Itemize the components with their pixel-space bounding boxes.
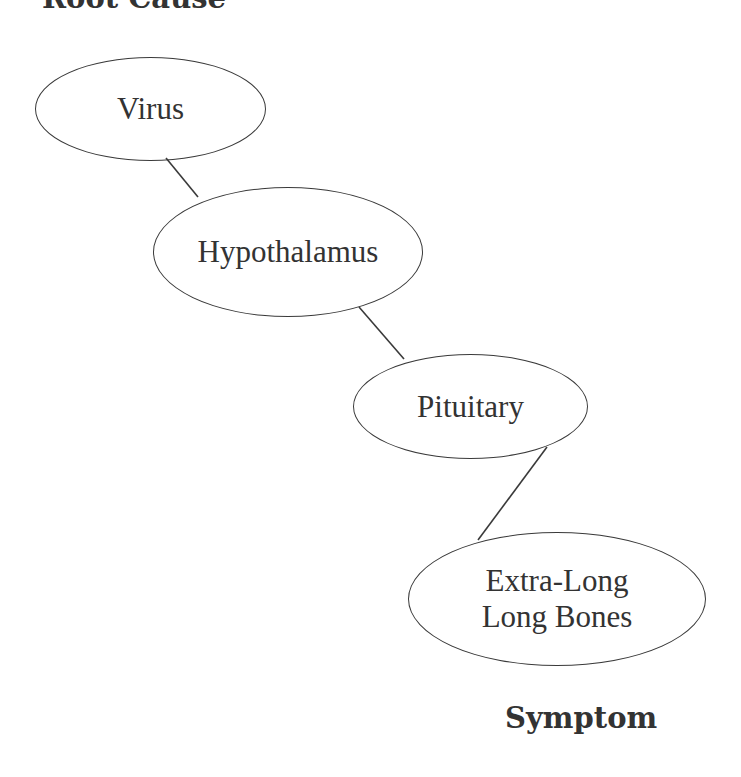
node-bones-label-line2: Long Bones [482,599,633,635]
node-pituitary: Pituitary [353,354,588,459]
node-hypothalamus: Hypothalamus [153,187,423,317]
node-pituitary-label: Pituitary [417,389,524,425]
edge-pituitary-bones [478,447,547,540]
node-virus: Virus [35,57,266,161]
node-bones-label-line1: Extra-Long [486,563,629,599]
node-hypothalamus-label: Hypothalamus [198,234,379,270]
symptom-title: Symptom [505,704,657,733]
node-extra-long-bones: Extra-Long Long Bones [408,532,706,666]
node-virus-label: Virus [117,91,184,127]
edge-hypothalamus-pituitary [359,307,404,359]
edge-virus-hypothalamus [166,158,198,197]
